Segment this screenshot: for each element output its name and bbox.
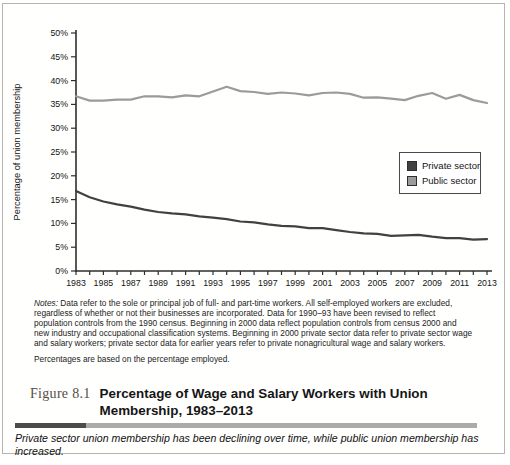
union-membership-chart: 0%5%10%15%20%25%30%35%40%45%50%198319851…: [3, 4, 505, 296]
x-tick-label: 1983: [66, 278, 86, 288]
y-tick-label: 35%: [50, 99, 68, 109]
figure-notes: Notes: Data refer to the sole or princip…: [34, 298, 474, 348]
y-tick-label: 0%: [55, 266, 68, 276]
y-tick-label: 50%: [50, 28, 68, 38]
x-tick-label: 2007: [395, 278, 415, 288]
figure-title: Percentage of Wage and Salary Workers wi…: [100, 385, 442, 419]
y-tick-label: 45%: [50, 52, 68, 62]
chart-legend: Private sector Public sector: [399, 152, 481, 194]
notes-label: Notes:: [34, 298, 58, 308]
legend-label-private-sector: Private sector: [422, 158, 480, 173]
legend-item-private-sector: Private sector: [407, 158, 474, 173]
union-chart-svg: 0%5%10%15%20%25%30%35%40%45%50%198319851…: [3, 4, 505, 296]
caption-divider: [15, 423, 477, 428]
legend-label-public-sector: Public sector: [422, 173, 476, 188]
x-tick-label: 1995: [231, 278, 251, 288]
x-tick-label: 1993: [203, 278, 223, 288]
y-tick-label: 25%: [50, 147, 68, 157]
x-tick-label: 1997: [258, 278, 278, 288]
x-tick-label: 2009: [422, 278, 442, 288]
y-tick-label: 40%: [50, 76, 68, 86]
figure-number: Figure 8.1: [30, 385, 91, 402]
x-tick-label: 2003: [340, 278, 360, 288]
y-tick-label: 5%: [55, 242, 68, 252]
figure-panel: 0%5%10%15%20%25%30%35%40%45%50%198319851…: [2, 3, 505, 454]
caption-divider-accent: [15, 423, 86, 428]
legend-item-public-sector: Public sector: [407, 173, 474, 188]
x-tick-label: 1999: [285, 278, 305, 288]
y-tick-label: 10%: [50, 218, 68, 228]
y-axis-title: Percentage of union membership: [12, 84, 22, 221]
private-sector-line: [76, 191, 487, 240]
x-tick-label: 1991: [176, 278, 196, 288]
x-tick-label: 1985: [94, 278, 114, 288]
x-tick-label: 1989: [148, 278, 168, 288]
public-sector-line: [76, 87, 487, 103]
figure-notes-line2: Percentages are based on the percentage …: [34, 354, 474, 364]
private-sector-swatch-icon: [407, 161, 417, 171]
figure-caption: Figure 8.1 Percentage of Wage and Salary…: [30, 385, 442, 419]
x-tick-label: 2013: [477, 278, 497, 288]
notes-body: Data refer to the sole or principal job …: [34, 298, 472, 348]
public-sector-swatch-icon: [407, 176, 417, 186]
y-tick-label: 15%: [50, 195, 68, 205]
x-tick-label: 2005: [368, 278, 388, 288]
x-tick-label: 2011: [450, 278, 469, 288]
x-tick-label: 1987: [121, 278, 141, 288]
y-tick-label: 30%: [50, 123, 68, 133]
x-tick-label: 2001: [313, 278, 333, 288]
figure-summary: Private sector union membership has been…: [15, 432, 495, 458]
y-tick-label: 20%: [50, 171, 68, 181]
